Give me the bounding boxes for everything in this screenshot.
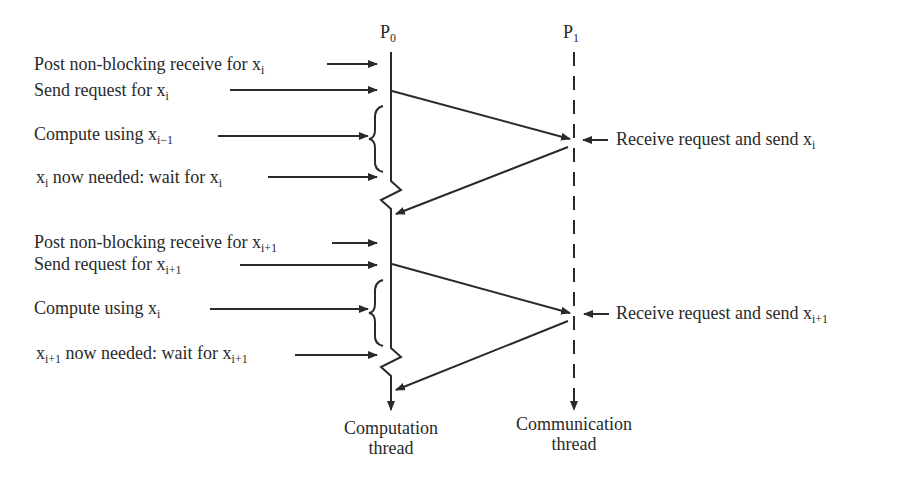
step-post-receive-xi: Post non-blocking receive for xi — [34, 54, 264, 74]
step-compute-xi: Compute using xi — [34, 298, 160, 318]
p1-receive-send-xi: Receive request and send xi — [616, 129, 815, 149]
step-compute-xi-1: Compute using xi−1 — [34, 124, 173, 144]
process-p0-label: P0 — [380, 22, 396, 42]
step-send-request-xi: Send request for xi — [34, 80, 169, 100]
step-wait-xi1: xi+1 now needed: wait for xi+1 — [36, 343, 248, 363]
step-post-receive-xi1: Post non-blocking receive for xi+1 — [34, 232, 277, 252]
computation-thread-label: Computation thread — [326, 418, 456, 458]
communication-thread-label: Communication thread — [499, 414, 649, 454]
p1-receive-send-xi1: Receive request and send xi+1 — [616, 303, 828, 323]
process-p1-label: P1 — [563, 22, 579, 42]
computation-thread-line — [381, 52, 401, 410]
step-wait-xi: xi now needed: wait for xi — [36, 167, 222, 187]
step-send-request-xi1: Send request for xi+1 — [34, 254, 182, 274]
